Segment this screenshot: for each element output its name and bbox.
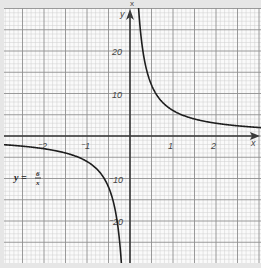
equation-lhs: y = xyxy=(13,172,27,183)
equation-numerator: 6 xyxy=(36,170,40,178)
x-tick-label: ⁻1 xyxy=(80,141,90,151)
y-tick-label: 20 xyxy=(111,47,122,57)
graph-of-y-equals-6-over-x: x y x ⁻2⁻112 2010⁻10⁻20 y = 6 x xyxy=(0,0,261,268)
y-tick-label: ⁻10 xyxy=(108,175,123,185)
equation-denominator: x xyxy=(35,179,40,187)
y-axis-label: y xyxy=(119,9,125,19)
x-tick-label: 2 xyxy=(210,141,216,151)
y-tick-label: ⁻20 xyxy=(108,217,123,227)
x-axis-label: x xyxy=(250,138,256,148)
x-tick-label: 1 xyxy=(168,141,173,151)
top-cropped-label: x xyxy=(130,0,134,8)
y-tick-label: 10 xyxy=(112,90,122,100)
